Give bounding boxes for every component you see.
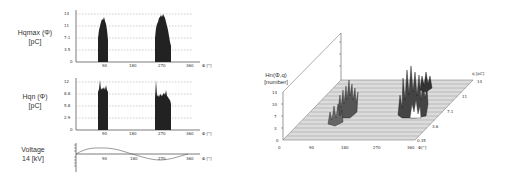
chart2 — [76, 78, 200, 130]
surface-3d — [281, 33, 473, 140]
plots-canvas — [0, 0, 507, 178]
voltage-chart — [74, 143, 200, 172]
chart1 — [76, 10, 200, 62]
